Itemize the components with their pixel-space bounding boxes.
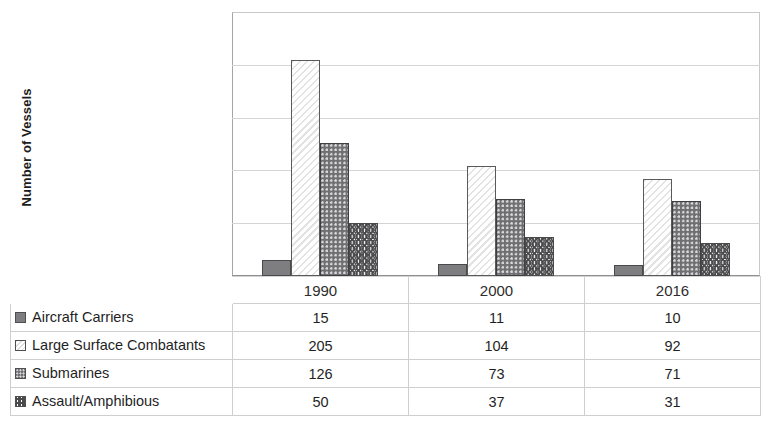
bar-group-2016 bbox=[584, 12, 760, 276]
table-cell-2000: 104 bbox=[409, 332, 585, 360]
legend-label: Assault/Amphibious bbox=[32, 393, 159, 409]
bar-groups bbox=[232, 12, 760, 276]
bar-submarines-1990 bbox=[320, 143, 349, 276]
table-cell-2016: 71 bbox=[585, 360, 761, 388]
table-header-2000: 2000 bbox=[409, 277, 585, 304]
hatch-swatch-icon bbox=[15, 340, 26, 351]
y-axis-title: Number of Vessels bbox=[19, 28, 34, 268]
bar-aircraft-carriers-2000 bbox=[438, 264, 467, 276]
bar-large-surface-combatants-2016 bbox=[643, 179, 672, 276]
table-header-2016: 2016 bbox=[585, 277, 761, 304]
table-header-row: 199020002016 bbox=[11, 277, 761, 304]
table-cell-1990: 126 bbox=[233, 360, 409, 388]
bar-group-1990 bbox=[232, 12, 408, 276]
legend-label: Aircraft Carriers bbox=[32, 309, 134, 325]
table-row: Assault/Amphibious503731 bbox=[11, 388, 761, 416]
table-cell-1990: 15 bbox=[233, 304, 409, 332]
table-cell-2000: 37 bbox=[409, 388, 585, 416]
table-cell-1990: 50 bbox=[233, 388, 409, 416]
bar-large-surface-combatants-2000 bbox=[467, 166, 496, 276]
table-cell-2016: 92 bbox=[585, 332, 761, 360]
bar-group-2000 bbox=[408, 12, 584, 276]
legend-row-label-cell: Assault/Amphibious bbox=[11, 388, 233, 416]
bar-aircraft-carriers-2016 bbox=[614, 265, 643, 276]
table-header-1990: 1990 bbox=[233, 277, 409, 304]
table-cell-2000: 11 bbox=[409, 304, 585, 332]
legend-row-label-cell: Aircraft Carriers bbox=[11, 304, 233, 332]
table-row: Submarines1267371 bbox=[11, 360, 761, 388]
legend-label: Submarines bbox=[32, 365, 109, 381]
chart-page: Number of Vessels 250200150100500 199020… bbox=[0, 0, 772, 422]
bar-assault-amphibious-1990 bbox=[349, 223, 378, 276]
plot-area: 250200150100500 bbox=[232, 12, 760, 276]
solid-gray-swatch-icon bbox=[15, 312, 26, 323]
legend-label: Large Surface Combatants bbox=[32, 337, 205, 353]
zigzag-swatch-icon bbox=[15, 396, 26, 407]
bar-submarines-2016 bbox=[672, 201, 701, 276]
bar-submarines-2000 bbox=[496, 199, 525, 276]
data-table: 199020002016Aircraft Carriers151110Large… bbox=[10, 276, 761, 416]
bar-large-surface-combatants-1990 bbox=[291, 60, 320, 276]
bar-assault-amphibious-2016 bbox=[701, 243, 730, 276]
bar-assault-amphibious-2000 bbox=[525, 237, 554, 276]
bar-aircraft-carriers-1990 bbox=[262, 260, 291, 276]
table-row: Large Surface Combatants20510492 bbox=[11, 332, 761, 360]
dotted-swatch-icon bbox=[15, 368, 26, 379]
table-cell-1990: 205 bbox=[233, 332, 409, 360]
legend-row-label-cell: Large Surface Combatants bbox=[11, 332, 233, 360]
table-cell-2016: 10 bbox=[585, 304, 761, 332]
table-cell-2000: 73 bbox=[409, 360, 585, 388]
table-header-corner bbox=[11, 277, 233, 304]
table-row: Aircraft Carriers151110 bbox=[11, 304, 761, 332]
legend-row-label-cell: Submarines bbox=[11, 360, 233, 388]
table-cell-2016: 31 bbox=[585, 388, 761, 416]
